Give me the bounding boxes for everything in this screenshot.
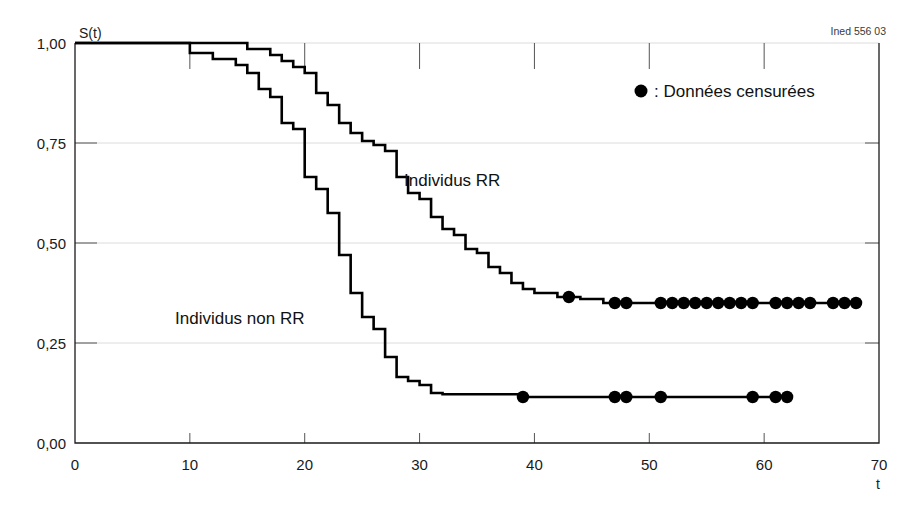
y-tick-label: 0,25: [37, 335, 66, 352]
censored-point-marker: [666, 297, 678, 309]
censored-point-marker: [620, 297, 632, 309]
plot-area: 0,000,250,500,751,00 010203040506070 S(t…: [0, 0, 915, 521]
censored-point-marker: [781, 391, 793, 403]
series-label-non-rr: Individus non RR: [175, 309, 304, 328]
censored-point-marker: [678, 297, 690, 309]
censored-point-marker: [701, 297, 713, 309]
filled-circle-icon: [635, 85, 648, 98]
y-tick-label: 0,00: [37, 435, 66, 452]
censored-markers: [517, 291, 862, 403]
censored-point-marker: [838, 297, 850, 309]
censored-point-marker: [781, 297, 793, 309]
credit-watermark: Ined 556 03: [831, 25, 887, 37]
censored-point-marker: [827, 297, 839, 309]
x-tick-label: 0: [71, 456, 79, 473]
x-tick-label: 50: [641, 456, 658, 473]
censored-point-marker: [746, 391, 758, 403]
censored-point-marker: [769, 297, 781, 309]
y-tick-label: 0,75: [37, 135, 66, 152]
x-tick-label: 30: [411, 456, 428, 473]
censored-point-marker: [609, 391, 621, 403]
y-tick-labels: 0,000,250,500,751,00: [37, 35, 66, 452]
y-tick-label: 1,00: [37, 35, 66, 52]
censored-point-marker: [746, 297, 758, 309]
censored-point-marker: [735, 297, 747, 309]
y-axis-title: S(t): [79, 25, 102, 41]
censored-point-marker: [655, 297, 667, 309]
censored-point-marker: [769, 391, 781, 403]
censored-point-marker: [655, 391, 667, 403]
series-label-rr: Individus RR: [404, 171, 500, 190]
x-axis-title: t: [876, 476, 880, 492]
censored-point-marker: [804, 297, 816, 309]
x-tick-label: 40: [526, 456, 543, 473]
x-tick-label: 70: [871, 456, 888, 473]
censored-point-marker: [609, 297, 621, 309]
censored-point-marker: [517, 391, 529, 403]
censored-point-marker: [723, 297, 735, 309]
x-tick-label: 10: [182, 456, 199, 473]
censored-point-marker: [850, 297, 862, 309]
censored-point-marker: [792, 297, 804, 309]
x-tick-label: 60: [756, 456, 773, 473]
x-tick-labels: 010203040506070: [71, 456, 888, 473]
y-tick-label: 0,50: [37, 235, 66, 252]
censored-point-marker: [563, 291, 575, 303]
legend-label: : Données censurées: [654, 82, 815, 101]
x-tick-label: 20: [296, 456, 313, 473]
censored-point-marker: [712, 297, 724, 309]
censored-point-marker: [689, 297, 701, 309]
survival-curve-figure: 0,000,250,500,751,00 010203040506070 S(t…: [0, 0, 915, 521]
censored-point-marker: [620, 391, 632, 403]
